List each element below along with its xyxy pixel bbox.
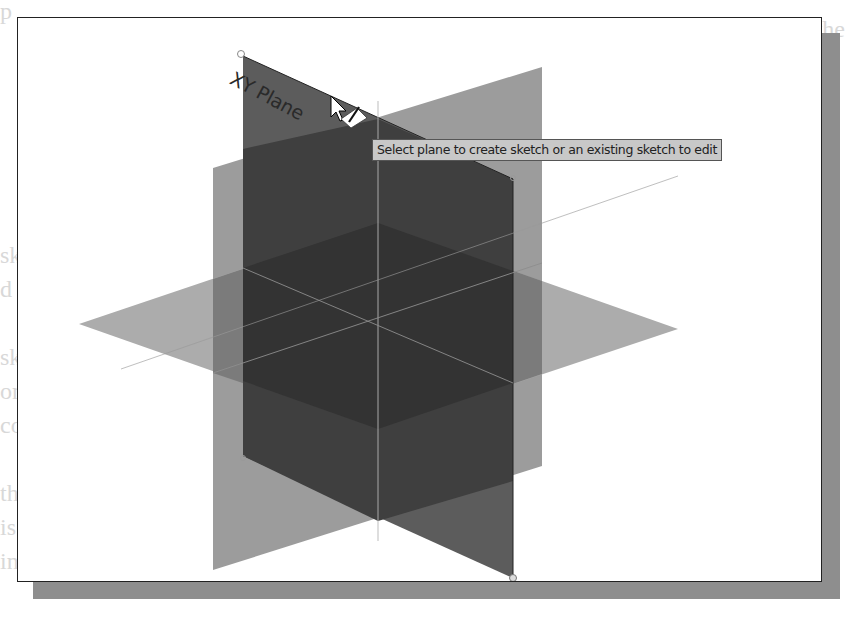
3d-viewport[interactable] <box>18 18 822 582</box>
plane-corner-handle-bottom[interactable] <box>510 575 517 582</box>
plane-corner-handle-top[interactable] <box>238 51 245 58</box>
tooltip: Select plane to create sketch or an exis… <box>372 139 722 161</box>
graphics-window[interactable]: XY Plane Select plane to create sketch o… <box>17 17 822 582</box>
